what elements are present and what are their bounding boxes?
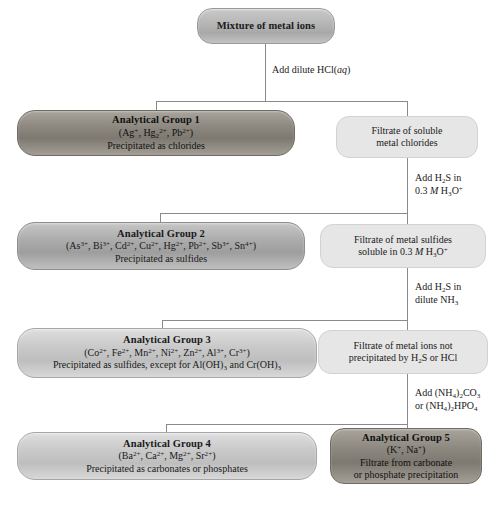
node-title: Analytical Group 5 (362, 432, 450, 444)
node-analytical-group-3: Analytical Group 3 (Co2+, Fe2+, Mn2+, Ni… (17, 328, 317, 378)
node-description: Filtrate of metal ions notprecipitated b… (349, 340, 458, 365)
node-description: Filtrate of solublemetal chlorides (371, 125, 442, 149)
node-description: Filtrate from carbonateor phosphate prec… (354, 457, 458, 481)
step-label-2: Add H2S in0.3 M H3O+ (415, 172, 463, 199)
node-description: Precipitated as carbonates or phosphates (86, 463, 248, 475)
node-analytical-group-4: Analytical Group 4 (Ba2+, Ca2+, Mg2+, Sr… (17, 432, 317, 480)
step-label-1: Add dilute HCl(aq) (272, 64, 350, 77)
node-analytical-group-1: Analytical Group 1 (Ag+, Hg22+, Pb2+) Pr… (17, 110, 295, 156)
qualitative-analysis-flowchart: Mixture of metal ions Add dilute HCl(aq)… (0, 0, 492, 506)
connector-split-2 (160, 213, 408, 214)
node-description: Precipitated as sulfides, except for Al(… (53, 359, 281, 372)
node-title: Analytical Group 1 (112, 114, 200, 126)
node-ions: (Ba2+, Ca2+, Mg2+, Sr2+) (119, 450, 216, 462)
step-label-3: Add H2S indilute NH3 (415, 281, 461, 308)
node-filtrate-soluble-chlorides: Filtrate of solublemetal chlorides (336, 116, 478, 158)
connector-split-3 (162, 320, 408, 321)
connector-filtrate1-down (407, 158, 408, 213)
connector-split-4 (166, 424, 408, 425)
node-title: Analytical Group 2 (117, 228, 205, 240)
node-filtrate-unprecipitated-ions: Filtrate of metal ions notprecipitated b… (318, 330, 488, 374)
node-filtrate-soluble-sulfides: Filtrate of metal sulfidessoluble in 0.3… (320, 224, 486, 268)
node-analytical-group-2: Analytical Group 2 (As3+, Bi3+, Cd2+, Cu… (17, 222, 305, 270)
node-title: Analytical Group 3 (123, 334, 211, 346)
node-ions: (Ag+, Hg22+, Pb2+) (119, 127, 193, 140)
node-description: Filtrate of metal sulfidessoluble in 0.3… (354, 234, 452, 259)
step-label-4: Add (NH4)2CO3or (NH4)2HPO4 (415, 387, 480, 414)
connector-split-1 (156, 101, 407, 102)
node-mixture-of-metal-ions: Mixture of metal ions (197, 8, 335, 44)
node-ions: (As3+, Bi3+, Cd2+, Cu2+, Hg2+, Pb2+, Sb3… (66, 240, 256, 252)
node-description: Precipitated as chlorides (107, 140, 205, 152)
node-ions: (K+, Na+) (387, 444, 426, 456)
node-analytical-group-5: Analytical Group 5 (K+, Na+) Filtrate fr… (330, 428, 482, 484)
node-ions: (Co2+, Fe2+, Mn2+, Ni2+, Zn2+, Al3+, Cr3… (84, 347, 250, 359)
connector-filtrate3-down (407, 374, 408, 424)
node-title: Mixture of metal ions (217, 20, 315, 32)
connector-filtrate2-down (407, 268, 408, 320)
connector-to-filtrate1 (407, 101, 408, 117)
connector-mixture-down (265, 44, 266, 101)
node-description: Precipitated as sulfides (115, 253, 207, 265)
node-title: Analytical Group 4 (123, 438, 211, 450)
